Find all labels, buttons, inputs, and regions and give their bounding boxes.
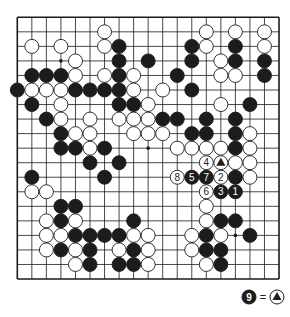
black-stone bbox=[214, 214, 228, 228]
white-stone bbox=[68, 257, 82, 271]
white-stone bbox=[243, 127, 257, 141]
black-stone bbox=[39, 112, 53, 126]
white-stone bbox=[25, 83, 39, 97]
white-stone bbox=[127, 228, 141, 242]
black-stone bbox=[214, 257, 228, 271]
black-stone bbox=[25, 68, 39, 82]
black-stone bbox=[127, 243, 141, 257]
white-stone bbox=[199, 257, 213, 271]
black-stone bbox=[54, 243, 68, 257]
white-stone bbox=[214, 54, 228, 68]
black-stone bbox=[25, 170, 39, 184]
star-point bbox=[234, 234, 238, 238]
go-board[interactable]: 48572631 bbox=[0, 0, 290, 290]
black-stone bbox=[54, 199, 68, 213]
black-stone-move-1: 1 bbox=[228, 185, 242, 199]
white-stone bbox=[199, 141, 213, 155]
white-stone bbox=[98, 39, 112, 53]
white-stone bbox=[199, 214, 213, 228]
white-stone bbox=[243, 156, 257, 170]
black-stone bbox=[243, 228, 257, 242]
white-stone bbox=[141, 112, 155, 126]
black-stone bbox=[170, 112, 184, 126]
legend-triangle-stone bbox=[270, 290, 284, 304]
white-stone bbox=[54, 112, 68, 126]
white-stone bbox=[199, 39, 213, 53]
black-stone bbox=[228, 112, 242, 126]
white-stone bbox=[112, 243, 126, 257]
black-stone bbox=[98, 141, 112, 155]
black-stone bbox=[112, 39, 126, 53]
black-stone bbox=[112, 68, 126, 82]
white-stone bbox=[214, 68, 228, 82]
white-stone bbox=[54, 228, 68, 242]
white-stone bbox=[83, 127, 97, 141]
white-stone bbox=[39, 214, 53, 228]
white-stone bbox=[185, 243, 199, 257]
white-stone bbox=[68, 68, 82, 82]
black-stone bbox=[228, 170, 242, 184]
star-point bbox=[146, 146, 150, 150]
white-stone bbox=[98, 68, 112, 82]
white-stone bbox=[68, 127, 82, 141]
black-stone bbox=[257, 68, 271, 82]
black-stone bbox=[10, 83, 24, 97]
white-stone bbox=[141, 98, 155, 112]
black-stone bbox=[83, 83, 97, 97]
legend-move-number: 9 bbox=[246, 292, 252, 303]
black-stone-move-3: 3 bbox=[214, 185, 228, 199]
white-stone bbox=[54, 98, 68, 112]
white-stone bbox=[228, 68, 242, 82]
black-stone bbox=[112, 83, 126, 97]
black-stone bbox=[185, 54, 199, 68]
move-number: 6 bbox=[204, 186, 210, 197]
white-stone bbox=[83, 112, 97, 126]
black-stone bbox=[199, 112, 213, 126]
white-stone bbox=[156, 127, 170, 141]
black-stone bbox=[228, 214, 242, 228]
white-stone bbox=[199, 25, 213, 39]
black-stone-move-7: 7 bbox=[199, 170, 213, 184]
black-stone bbox=[68, 141, 82, 155]
move-number: 2 bbox=[218, 172, 224, 183]
black-stone bbox=[54, 214, 68, 228]
black-stone bbox=[228, 141, 242, 155]
white-stone bbox=[214, 98, 228, 112]
white-stone bbox=[214, 228, 228, 242]
black-stone bbox=[112, 228, 126, 242]
star-point bbox=[59, 59, 63, 63]
black-stone bbox=[112, 98, 126, 112]
black-stone bbox=[25, 98, 39, 112]
white-stone bbox=[98, 25, 112, 39]
black-stone bbox=[228, 39, 242, 53]
white-stone bbox=[39, 83, 53, 97]
black-stone bbox=[257, 54, 271, 68]
black-stone bbox=[214, 243, 228, 257]
white-stone bbox=[54, 83, 68, 97]
white-stone bbox=[141, 257, 155, 271]
white-stone bbox=[127, 83, 141, 97]
black-stone bbox=[98, 228, 112, 242]
move-number: 4 bbox=[204, 157, 210, 168]
white-stone bbox=[68, 214, 82, 228]
black-stone bbox=[83, 156, 97, 170]
white-stone-move-6: 6 bbox=[199, 185, 213, 199]
black-stone bbox=[199, 243, 213, 257]
move-number: 7 bbox=[204, 172, 210, 183]
black-stone bbox=[185, 83, 199, 97]
move-number: 5 bbox=[189, 172, 195, 183]
white-stone bbox=[39, 243, 53, 257]
black-stone bbox=[228, 54, 242, 68]
white-stone bbox=[141, 243, 155, 257]
black-stone bbox=[243, 98, 257, 112]
black-stone bbox=[83, 243, 97, 257]
black-stone bbox=[170, 68, 184, 82]
black-stone bbox=[127, 214, 141, 228]
white-stone bbox=[185, 228, 199, 242]
white-stone bbox=[25, 39, 39, 53]
legend-black-stone: 9 bbox=[242, 290, 256, 304]
black-stone bbox=[112, 54, 126, 68]
white-stone bbox=[257, 39, 271, 53]
white-stone bbox=[54, 39, 68, 53]
white-stone bbox=[156, 83, 170, 97]
